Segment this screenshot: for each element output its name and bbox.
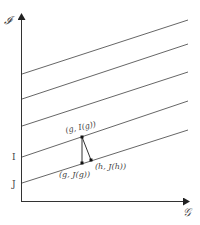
point-g-I [81, 136, 84, 139]
point-label-g-I: (g, I(g)) [65, 120, 97, 135]
level-line-I [22, 101, 188, 157]
level-line-J [22, 130, 188, 183]
x-axis-label: 𝒢 [183, 206, 193, 219]
level-line-3 [22, 72, 188, 126]
level-line-1 [22, 20, 188, 74]
diagonal-segment [82, 137, 91, 160]
level-label-I: I [12, 152, 16, 162]
y-axis-label: 𝓘 [4, 14, 15, 27]
point-label-h-J: (h, J(h)) [95, 162, 126, 171]
point-h-J [90, 159, 93, 162]
level-line-2 [22, 44, 188, 99]
level-sets-diagram: 𝓘 𝒢 I J (g, I(g)) (g, J(g)) (h, J(h)) [0, 0, 200, 225]
diagram-canvas: 𝓘 𝒢 I J (g, I(g)) (g, J(g)) (h, J(h)) [0, 0, 200, 225]
point-label-g-J: (g, J(g)) [59, 170, 90, 179]
point-g-J [81, 162, 84, 165]
level-label-J: J [11, 179, 16, 189]
